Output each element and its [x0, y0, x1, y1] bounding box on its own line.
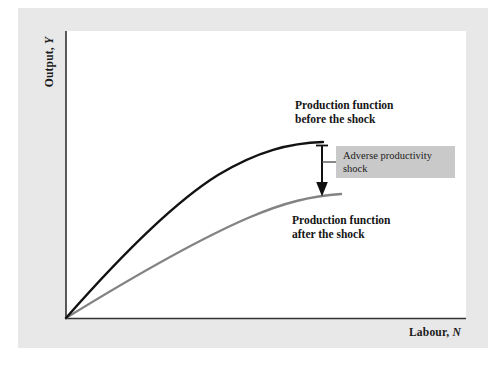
y-axis-title-symbol: Y [43, 37, 55, 44]
x-axis-title-main: Labour, [409, 326, 449, 338]
figure-screenshot: Adverse productivity shock Production fu… [0, 0, 502, 365]
label-before-shock-line-1: Production function [295, 98, 394, 112]
curve-before-shock [66, 142, 323, 318]
callout-line-1: Adverse productivity [343, 150, 455, 163]
callout-line-2: shock [343, 163, 455, 176]
label-before-shock-line-2: before the shock [295, 112, 394, 126]
chart-canvas [0, 0, 502, 365]
x-axis-title-symbol: N [452, 326, 461, 338]
x-axis-title: Labour, N [409, 326, 461, 338]
label-after-shock-line-2: after the shock [292, 227, 391, 241]
label-after-shock-line-1: Production function [292, 213, 391, 227]
label-after-shock: Production function after the shock [292, 213, 391, 241]
shock-callout-box: Adverse productivity shock [336, 146, 455, 178]
label-before-shock: Production function before the shock [295, 98, 394, 126]
y-axis-title: Output, Y [43, 7, 55, 117]
y-axis-title-main: Output, [43, 47, 55, 87]
